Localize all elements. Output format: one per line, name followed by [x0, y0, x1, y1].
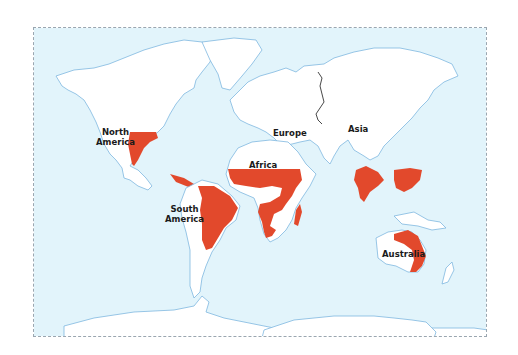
- label-australia: Australia: [382, 249, 425, 259]
- world-map: North America South America Europe Asia …: [33, 27, 487, 337]
- label-europe: Europe: [273, 128, 307, 138]
- label-north-america: North America: [96, 127, 135, 147]
- world-map-graphic: [34, 28, 487, 337]
- label-asia: Asia: [348, 124, 368, 134]
- label-africa: Africa: [249, 160, 277, 170]
- label-south-america: South America: [165, 204, 204, 224]
